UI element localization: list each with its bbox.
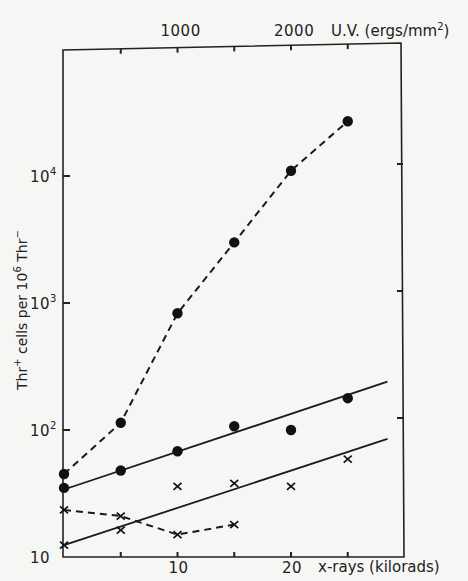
data-point-circle <box>229 237 239 247</box>
series-markers <box>59 116 353 549</box>
tick-labels: 10201000200010102103104 <box>30 22 314 577</box>
fit-line-1 <box>64 382 387 490</box>
y-tick-label: 10 <box>30 549 50 567</box>
y-tick-label: 103 <box>30 293 57 313</box>
data-point-circle <box>286 425 296 435</box>
chart: 10201000200010102103104 x-rays (kilorads… <box>0 0 468 581</box>
data-point-circle <box>286 166 296 176</box>
data-point-circle <box>59 483 69 493</box>
data-point-circle <box>172 308 182 318</box>
series-line-2 <box>64 510 234 535</box>
x-tick-label: 10 <box>169 559 189 577</box>
x-axis-title: x-rays (kilorads) <box>318 558 440 576</box>
data-point-cross <box>174 483 182 490</box>
data-point-circle <box>59 469 69 479</box>
x2-axis-title: U.V. (ergs/mm2) <box>331 21 449 40</box>
y-tick-label: 102 <box>30 420 57 440</box>
x2-tick-label: 2000 <box>274 22 314 40</box>
x-tick-label: 20 <box>282 559 302 577</box>
series-lines <box>64 121 387 545</box>
data-point-circle <box>229 421 239 431</box>
series-line-0 <box>64 121 348 474</box>
data-point-circle <box>172 446 182 456</box>
data-point-cross <box>344 456 352 463</box>
y-axis-title: Thr+ cells per 106 Thr− <box>12 230 30 391</box>
data-point-circle <box>343 393 353 403</box>
plot-frame <box>63 43 404 557</box>
data-point-cross <box>230 480 238 487</box>
data-point-cross <box>287 483 295 490</box>
fit-line-3 <box>64 439 387 545</box>
y-tick-label: 104 <box>30 166 57 186</box>
data-point-circle <box>116 418 126 428</box>
data-point-cross <box>117 527 125 534</box>
x2-tick-label: 1000 <box>161 22 201 40</box>
data-point-circle <box>343 116 353 126</box>
data-point-circle <box>116 465 126 475</box>
